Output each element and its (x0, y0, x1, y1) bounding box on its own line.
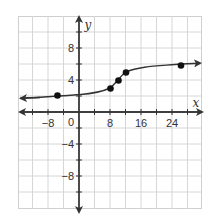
x-tick-label: 24 (166, 117, 178, 129)
tick-labels: −8 0 8 16 24 8 4 −4 −8 x y (42, 18, 200, 182)
origin-label: 0 (68, 116, 74, 128)
y-tick-label: −4 (61, 138, 74, 150)
y-axis-label: y (84, 18, 92, 32)
y-tick-label: 8 (68, 42, 74, 54)
point-8-3 (107, 85, 114, 92)
y-tick-label: −8 (61, 170, 74, 182)
x-tick-label: −8 (42, 117, 55, 129)
coordinate-plane: −8 0 8 16 24 8 4 −4 −8 x y (0, 0, 213, 219)
point-12-5 (123, 69, 130, 76)
point-26-6 (178, 62, 185, 69)
axes (20, 17, 202, 212)
point-neg6-2 (54, 92, 61, 99)
x-tick-label: 16 (135, 117, 147, 129)
point-10-4 (115, 77, 122, 84)
x-tick-label: 8 (107, 117, 113, 129)
y-tick-label: 4 (68, 74, 74, 86)
x-axis-label: x (193, 96, 200, 110)
